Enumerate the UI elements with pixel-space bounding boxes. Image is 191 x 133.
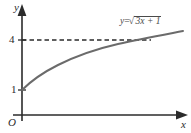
radical-sign-icon: √	[129, 16, 135, 27]
graph-canvas	[0, 0, 191, 133]
x-axis-label: x	[181, 119, 186, 130]
radical-expression: √3x + 1	[130, 16, 162, 27]
graph-figure: y x O 4 1 y=√3x + 1	[0, 0, 191, 133]
origin-label: O	[8, 117, 16, 128]
y-tick-label-4: 4	[9, 34, 15, 45]
radicand: 3x + 1	[134, 16, 162, 27]
y-tick-label-1: 1	[11, 84, 17, 95]
y-axis-label: y	[14, 2, 19, 13]
equation-label: y=√3x + 1	[120, 16, 161, 27]
